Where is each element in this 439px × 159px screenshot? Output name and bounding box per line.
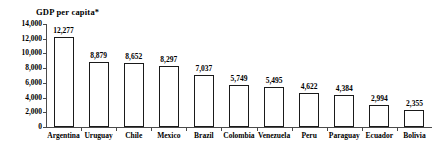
bar — [124, 63, 144, 127]
x-axis-category-label: Colombia — [221, 131, 256, 140]
bar — [89, 62, 109, 127]
x-axis-category-label: Paraguay — [327, 131, 362, 140]
x-axis-line — [46, 127, 432, 128]
chart-title: GDP per capita* — [36, 7, 99, 17]
bar — [229, 85, 249, 127]
bar-value-label: 12,277 — [53, 26, 74, 35]
x-axis-category-label: Venezuela — [257, 131, 292, 140]
x-axis-category-label: Chile — [116, 131, 151, 140]
x-axis-category-label: Argentina — [46, 131, 81, 140]
bar-value-label: 8,297 — [160, 55, 177, 64]
x-axis-category-label: Uruguay — [81, 131, 116, 140]
y-axis-tick-label: 12,000 — [21, 34, 42, 43]
bar-slot: 2,994 — [362, 24, 397, 127]
bar — [369, 105, 389, 127]
plot-area: 02,0004,0006,0008,00010,00012,00014,000 … — [46, 24, 432, 127]
x-axis-category-label: Brazil — [186, 131, 221, 140]
bar-value-label: 5,495 — [266, 76, 283, 85]
bar — [334, 95, 354, 127]
bar-value-label: 2,994 — [371, 94, 388, 103]
x-axis-category-label: Mexico — [151, 131, 186, 140]
bar-value-label: 5,749 — [231, 74, 248, 83]
bar-slot: 5,495 — [257, 24, 292, 127]
bar-slot: 2,355 — [397, 24, 432, 127]
y-axis-tick-label: 10,000 — [21, 48, 42, 57]
y-axis-tick-label: 2,000 — [25, 107, 42, 116]
bar-slot: 5,749 — [221, 24, 256, 127]
bar-slot: 8,652 — [116, 24, 151, 127]
gdp-per-capita-bar-chart: GDP per capita* 02,0004,0006,0008,00010,… — [0, 0, 439, 159]
bar-slot: 7,037 — [186, 24, 221, 127]
bar-value-label: 8,879 — [90, 51, 107, 60]
bar-value-label: 4,384 — [336, 84, 353, 93]
bar-slot: 4,384 — [327, 24, 362, 127]
bar-slot: 12,277 — [46, 24, 81, 127]
y-axis-tick-label: 8,000 — [25, 63, 42, 72]
bar-slot: 4,622 — [292, 24, 327, 127]
bar-value-label: 7,037 — [195, 64, 212, 73]
y-axis-tick-label: 4,000 — [25, 93, 42, 102]
x-axis-category-label: Peru — [292, 131, 327, 140]
bar — [404, 110, 424, 127]
y-axis-tick-label: 6,000 — [25, 78, 42, 87]
y-axis-tick-mark — [43, 127, 46, 128]
bar — [159, 66, 179, 127]
bar-slot: 8,879 — [81, 24, 116, 127]
bar — [264, 87, 284, 127]
bar — [54, 37, 74, 127]
bar — [299, 93, 319, 127]
bar-value-label: 4,622 — [301, 82, 318, 91]
bar — [194, 75, 214, 127]
x-axis-category-label: Bolivia — [397, 131, 432, 140]
y-axis-tick-label: 14,000 — [21, 19, 42, 28]
bar-slot: 8,297 — [151, 24, 186, 127]
x-axis-category-label: Ecuador — [362, 131, 397, 140]
y-axis-tick-label: 0 — [38, 122, 42, 131]
bar-value-label: 8,652 — [125, 52, 142, 61]
bar-value-label: 2,355 — [406, 99, 423, 108]
